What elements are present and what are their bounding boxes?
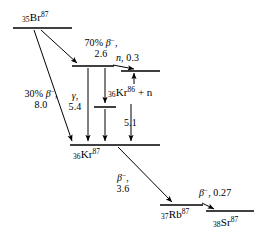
transition-arrow-beta-rb-to-sr xyxy=(202,203,214,209)
gamma-line2: 5.4 xyxy=(63,101,87,112)
beta-3p6-line2: 3.6 xyxy=(110,183,136,194)
sr87-mass-number: 87 xyxy=(231,215,239,224)
neutron-energy: 0.3 xyxy=(126,52,139,63)
beta-0p27-energy: 0.27 xyxy=(213,187,231,198)
kr87-symbol: Kr xyxy=(81,148,93,160)
decay-scheme-diagram: 35Br87 70% β−, 2.6 30% β−, 8.0 γ, 5.4 n,… xyxy=(0,0,266,241)
kr86-symbol: Kr xyxy=(116,86,128,98)
kr86-atomic-number: 36 xyxy=(108,90,116,99)
rb87-symbol: Rb xyxy=(169,208,182,220)
transition-arrow-beta-30 xyxy=(34,30,72,141)
transition-label-beta-3p6: β−, 3.6 xyxy=(110,172,136,194)
transition-label-beta-0p27: β−, 0.27 xyxy=(199,187,231,198)
kr86-tail: + n xyxy=(135,86,152,98)
rb87-atomic-number: 37 xyxy=(161,212,169,221)
level-label-br87: 35Br87 xyxy=(22,11,49,25)
kr87-mass-number: 87 xyxy=(93,147,101,156)
br87-atomic-number: 35 xyxy=(22,15,30,24)
rb87-mass-number: 87 xyxy=(182,207,190,216)
beta-70-line1: 70% β−, xyxy=(68,37,134,48)
level-label-kr87-ground: 36Kr87 xyxy=(73,148,100,162)
transition-label-5p1: 5.1 xyxy=(124,117,137,128)
br87-mass-number: 87 xyxy=(41,10,49,19)
level-label-rb87: 37Rb87 xyxy=(161,208,189,222)
transition-label-gamma: γ, 5.4 xyxy=(63,90,87,112)
br87-symbol: Br xyxy=(30,11,41,23)
transition-arrow-neutron-emission xyxy=(113,65,134,69)
kr87-atomic-number: 36 xyxy=(73,152,81,161)
level-label-sr87: 38Sr87 xyxy=(213,216,238,230)
gamma-line1: γ, xyxy=(63,90,87,101)
beta-3p6-line1: β−, xyxy=(110,172,136,183)
sr87-atomic-number: 38 xyxy=(213,220,221,229)
transition-label-neutron-emission: n, 0.3 xyxy=(116,52,139,63)
sr87-symbol: Sr xyxy=(221,216,231,228)
level-label-kr86-plus-n: 36Kr86 + n xyxy=(108,86,152,100)
